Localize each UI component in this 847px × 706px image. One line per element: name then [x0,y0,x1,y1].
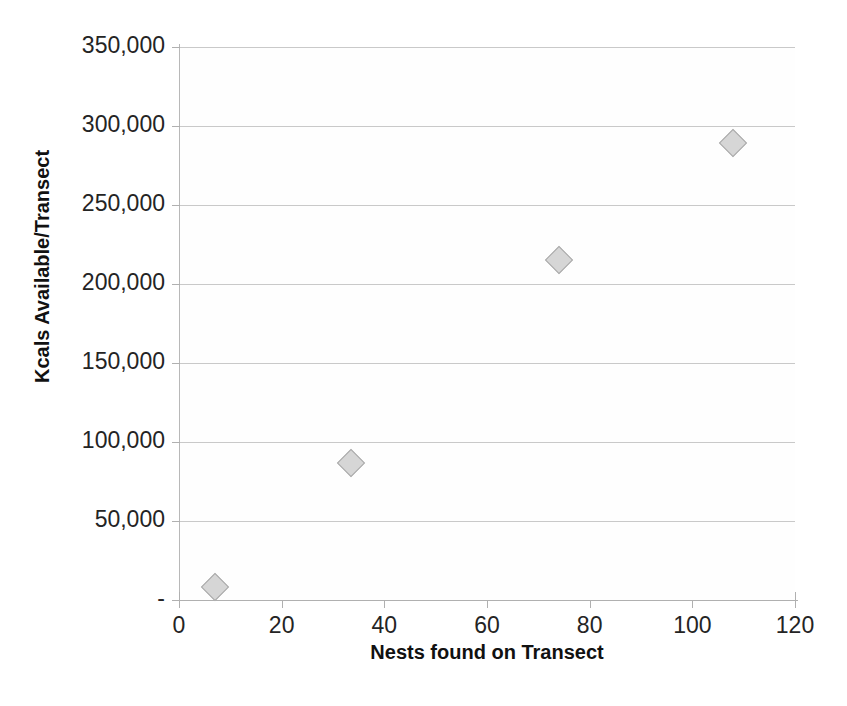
x-axis-tick-label: 100 [652,612,732,639]
y-axis-tick-label: 250,000 [40,190,165,217]
x-axis-tick-label: 20 [242,612,322,639]
gridline [179,284,795,285]
y-axis-tick-label: - [40,585,165,612]
gridline [179,442,795,443]
data-point-marker [201,573,229,601]
x-axis-tick [282,600,283,608]
data-point-marker [545,246,573,274]
y-axis-line [179,44,180,603]
gridline [179,205,795,206]
y-axis-tick-label: 300,000 [40,111,165,138]
y-axis-title: Kcals Available/Transect [31,57,54,477]
x-axis-title: Nests found on Transect [179,641,795,664]
x-axis-tick-label: 60 [447,612,527,639]
y-axis-tick [172,126,180,127]
y-axis-tick-label: 200,000 [40,269,165,296]
x-axis-tick [795,600,796,608]
gridline [179,47,795,48]
x-axis-tick [179,600,180,608]
plot-area [179,47,795,600]
scatter-chart: -50,000100,000150,000200,000250,000300,0… [0,0,847,706]
y-axis-tick [172,284,180,285]
y-axis-tick [172,47,180,48]
y-axis-tick-label: 50,000 [40,506,165,533]
x-axis-tick-label: 80 [550,612,630,639]
x-axis-tick [590,600,591,608]
x-axis-tick [384,600,385,608]
data-point-marker [719,129,747,157]
y-axis-tick [172,363,180,364]
x-axis-tick [487,600,488,608]
x-axis-tick-label: 120 [755,612,835,639]
y-axis-tick [172,442,180,443]
y-axis-tick [172,521,180,522]
x-axis-tick [692,600,693,608]
y-axis-tick [172,205,180,206]
data-point-marker [337,448,365,476]
gridline [179,521,795,522]
y-axis-tick-label: 350,000 [40,32,165,59]
y-axis-tick-label: 150,000 [40,348,165,375]
gridline [179,126,795,127]
x-axis-tick-label: 0 [139,612,219,639]
gridline [179,363,795,364]
x-axis-tick-label: 40 [344,612,424,639]
y-axis-tick-label: 100,000 [40,427,165,454]
